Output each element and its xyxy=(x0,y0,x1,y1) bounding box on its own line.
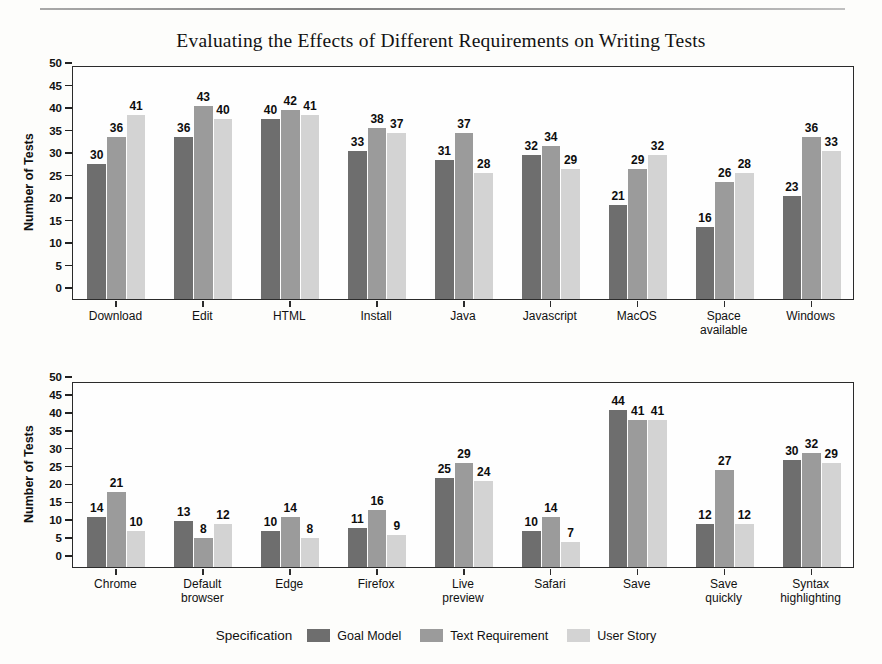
y-tick-35: 35 xyxy=(44,425,72,437)
bar-value-label: 41 xyxy=(651,404,664,418)
x-tick-mark xyxy=(637,569,639,575)
bar xyxy=(194,538,213,567)
x-tick-mark xyxy=(289,569,291,575)
x-tick-mark xyxy=(202,569,204,575)
bar-group xyxy=(783,383,841,567)
bar xyxy=(715,470,734,567)
bar xyxy=(368,510,387,567)
bar-group xyxy=(174,383,232,567)
bar xyxy=(561,542,580,567)
bar xyxy=(628,420,647,567)
x-tick-mark xyxy=(115,569,117,575)
y-tick-40: 40 xyxy=(44,407,72,419)
legend-item: Text Requirement xyxy=(420,629,548,643)
chart-legend: Specification Goal ModelText Requirement… xyxy=(0,628,882,643)
legend-label: User Story xyxy=(597,629,656,643)
bar-value-label: 16 xyxy=(370,494,383,508)
x-tick-mark xyxy=(724,569,726,575)
bar-value-label: 12 xyxy=(698,508,711,522)
bar-value-label: 21 xyxy=(110,476,123,490)
bar xyxy=(301,538,320,567)
bar xyxy=(127,531,146,567)
bar-value-label: 8 xyxy=(200,522,207,536)
chart-panel-bottom: Number of Tests 05101520253035404550 142… xyxy=(0,0,882,664)
y-tick-45: 45 xyxy=(44,389,72,401)
x-tick-mark xyxy=(811,569,813,575)
y-tick-10: 10 xyxy=(44,514,72,526)
y-tick-30: 30 xyxy=(44,443,72,455)
x-axis-bottom: ChromeDefault browserEdgeFirefoxLive pre… xyxy=(72,569,854,609)
bar xyxy=(455,463,474,567)
y-tick-50: 50 xyxy=(44,371,72,383)
bar-value-label: 25 xyxy=(438,462,451,476)
plot-frame-bottom: 1421101381210148111692529241014744414112… xyxy=(72,382,854,568)
x-axis-label: Default browser xyxy=(181,578,224,606)
bar-value-label: 11 xyxy=(351,512,364,526)
x-axis-label: Syntax highlighting xyxy=(780,578,841,606)
bar-value-label: 30 xyxy=(785,444,798,458)
bar xyxy=(348,528,367,567)
y-tick-0: 0 xyxy=(44,550,72,562)
bar-value-label: 24 xyxy=(477,465,490,479)
bar xyxy=(542,517,561,567)
legend-item: User Story xyxy=(567,629,656,643)
bar-group xyxy=(261,383,319,567)
x-axis-label: Save quickly xyxy=(705,578,742,606)
bar xyxy=(214,524,233,567)
bar xyxy=(387,535,406,567)
bar-group xyxy=(696,383,754,567)
bar xyxy=(435,478,454,567)
bar-value-label: 10 xyxy=(525,515,538,529)
bar xyxy=(696,524,715,567)
x-axis-label: Safari xyxy=(534,578,565,592)
bar-value-label: 14 xyxy=(90,501,103,515)
bar xyxy=(783,460,802,567)
bar-group xyxy=(348,383,406,567)
figure-page: Evaluating the Effects of Different Requ… xyxy=(0,0,882,664)
x-tick-mark xyxy=(376,569,378,575)
legend-label: Text Requirement xyxy=(450,629,548,643)
y-tick-25: 25 xyxy=(44,461,72,473)
x-axis-label: Save xyxy=(623,578,650,592)
legend-label: Goal Model xyxy=(337,629,401,643)
bar xyxy=(107,492,126,567)
bar-value-label: 29 xyxy=(457,447,470,461)
bar xyxy=(802,453,821,567)
bar-value-label: 14 xyxy=(284,501,297,515)
bar-value-label: 12 xyxy=(738,508,751,522)
y-tick-15: 15 xyxy=(44,496,72,508)
bar xyxy=(735,524,754,567)
bar-value-label: 8 xyxy=(307,522,314,536)
x-tick-mark xyxy=(463,569,465,575)
legend-item: Goal Model xyxy=(307,629,401,643)
bar xyxy=(87,517,106,567)
x-tick-mark xyxy=(550,569,552,575)
bar-value-label: 12 xyxy=(216,508,229,522)
bar-value-label: 9 xyxy=(393,519,400,533)
bar xyxy=(648,420,667,567)
bar xyxy=(261,531,280,567)
x-axis-label: Live preview xyxy=(442,578,483,606)
bar xyxy=(822,463,841,567)
bar xyxy=(474,481,493,567)
bar xyxy=(174,521,193,568)
bar-value-label: 44 xyxy=(611,394,624,408)
x-axis-label: Chrome xyxy=(94,578,137,592)
bar-value-label: 7 xyxy=(567,526,574,540)
y-tick-5: 5 xyxy=(44,532,72,544)
legend-title: Specification xyxy=(216,628,293,643)
bar-value-label: 41 xyxy=(631,404,644,418)
x-axis-label: Edge xyxy=(275,578,303,592)
bar-value-label: 10 xyxy=(264,515,277,529)
bar xyxy=(281,517,300,567)
legend-swatch-icon xyxy=(420,629,443,642)
bar-value-label: 13 xyxy=(177,505,190,519)
bar xyxy=(609,410,628,567)
bar-value-label: 32 xyxy=(805,437,818,451)
legend-swatch-icon xyxy=(567,629,590,642)
bar-value-label: 10 xyxy=(129,515,142,529)
y-tick-20: 20 xyxy=(44,478,72,490)
bar-value-label: 27 xyxy=(718,454,731,468)
bar-value-label: 14 xyxy=(544,501,557,515)
x-axis-label: Firefox xyxy=(358,578,395,592)
